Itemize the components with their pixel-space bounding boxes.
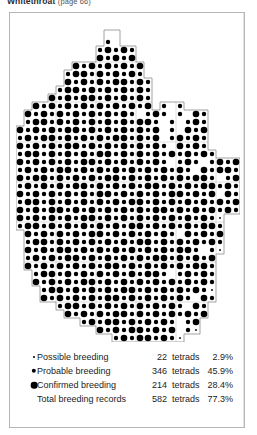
figure-caption: Whitethroat (page 66) [7, 0, 247, 6]
legend-count: 346 [129, 364, 167, 378]
legend-label: Total breeding records [37, 392, 126, 406]
legend-percent: 28.4% [195, 378, 233, 392]
map-legend: Possible breeding 22 tetrads 2.9% Probab… [9, 350, 245, 414]
distribution-map[interactable] [16, 22, 240, 344]
legend-label: Confirmed breeding [37, 378, 116, 392]
legend-row-possible: Possible breeding 22 tetrads 2.9% [9, 350, 245, 364]
legend-count: 582 [129, 392, 167, 406]
legend-percent: 2.9% [195, 350, 233, 364]
legend-label: Possible breeding [37, 350, 109, 364]
legend-label: Probable breeding [37, 364, 111, 378]
legend-row-probable: Probable breeding 346 tetrads 45.9% [9, 364, 245, 378]
page-reference: (page 66) [58, 0, 91, 6]
species-title: Whitethroat [7, 0, 55, 6]
legend-count: 214 [129, 378, 167, 392]
legend-count: 22 [129, 350, 167, 364]
legend-row-confirmed: Confirmed breeding 214 tetrads 28.4% [9, 378, 245, 392]
legend-row-total: Total breeding records 582 tetrads 77.3% [9, 392, 245, 406]
legend-percent: 45.9% [195, 364, 233, 378]
legend-percent: 77.3% [195, 392, 233, 406]
tetrad-dot-map-svg [16, 22, 240, 342]
